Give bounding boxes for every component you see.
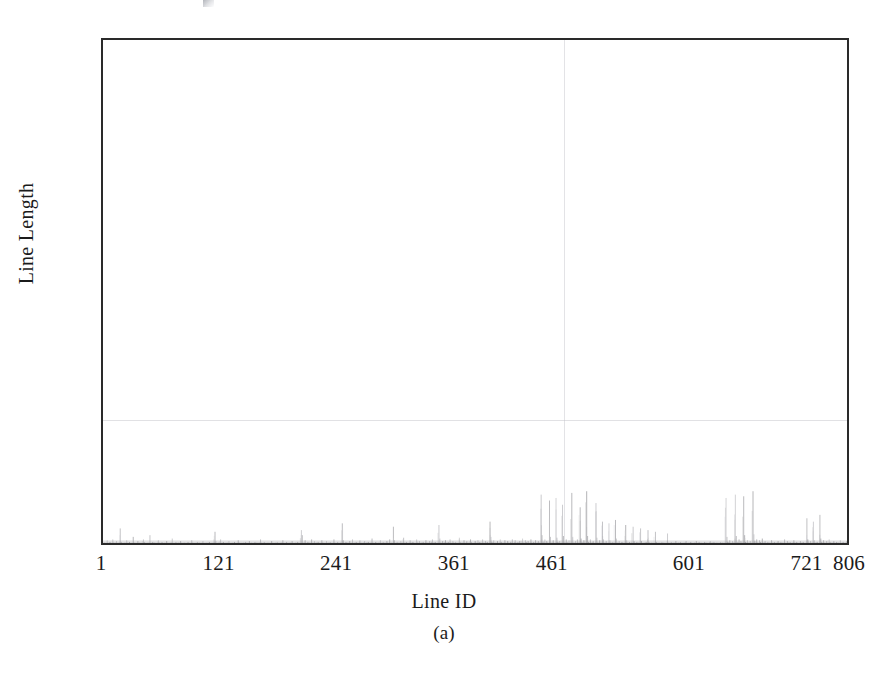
x-tick-label: 241 bbox=[320, 551, 352, 575]
x-tick-label: 121 bbox=[203, 551, 235, 575]
x-axis-title: Line ID bbox=[0, 590, 888, 613]
figure-container: 0150300450600 Line Length 11212413614616… bbox=[0, 0, 888, 681]
x-tick-label: 601 bbox=[673, 551, 705, 575]
line-length-impulse-plot bbox=[103, 40, 847, 543]
subfigure-caption: (a) bbox=[0, 622, 888, 644]
x-tick-label: 721 bbox=[790, 551, 822, 575]
x-tick-label: 361 bbox=[438, 551, 470, 575]
plot-area bbox=[103, 40, 847, 543]
x-tick-label: 1 bbox=[96, 551, 107, 575]
plot-frame bbox=[101, 38, 849, 545]
x-axis-tick-labels: 1121241361461601721806 bbox=[0, 551, 888, 581]
x-tick-label: 806 bbox=[833, 551, 865, 575]
y-axis-title: Line Length bbox=[15, 154, 38, 314]
scan-artifact bbox=[203, 0, 214, 7]
x-tick-label: 461 bbox=[536, 551, 568, 575]
